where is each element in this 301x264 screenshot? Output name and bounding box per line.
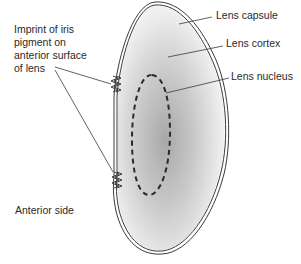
label-imprint-line2: pigment on [14,36,66,49]
label-lens-nucleus: Lens nucleus [231,70,293,83]
label-imprint-line1: Imprint of iris [14,23,74,36]
label-imprint-line3: anterior surface [14,49,87,62]
leader-imprint-upper [55,67,111,84]
label-imprint-line4: of lens [14,62,45,75]
label-lens-cortex: Lens cortex [226,37,280,50]
label-lens-capsule: Lens capsule [216,9,278,22]
label-anterior-side: Anterior side [15,204,74,217]
leader-imprint-lower [55,70,113,172]
